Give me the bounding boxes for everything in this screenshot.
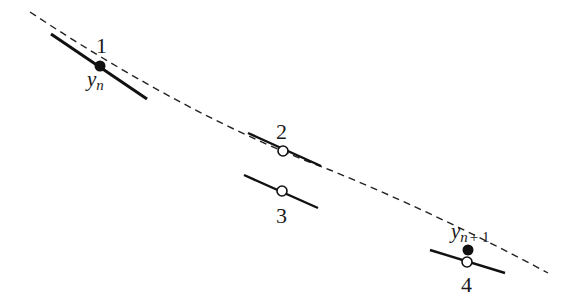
point-3-label: 3: [276, 203, 287, 228]
yn-plus-1-label: yn+ 1: [449, 219, 490, 245]
point-2-label: 2: [276, 119, 287, 144]
point-4-label: 4: [461, 272, 472, 297]
next-point-filled-marker: [463, 245, 474, 256]
point-4-hollow-marker: [462, 257, 472, 267]
point-1-label: 1: [96, 33, 107, 58]
point-3-hollow-marker: [277, 186, 287, 196]
rk4-diagram: 1 yn 2 3 4 yn+ 1: [0, 0, 579, 308]
point-2-hollow-marker: [278, 146, 288, 156]
